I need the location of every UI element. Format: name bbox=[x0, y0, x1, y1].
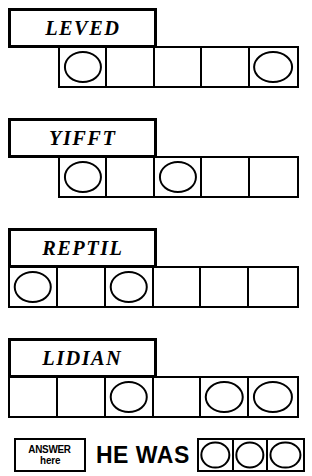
letter-cell[interactable] bbox=[60, 48, 107, 86]
puzzle-row-3: REPTIL bbox=[0, 222, 312, 322]
letter-cell[interactable] bbox=[106, 378, 154, 416]
answer-row: ANSWER here HE WAS bbox=[0, 436, 312, 476]
scrambled-word-1: LEVED bbox=[45, 18, 120, 39]
word-box-4: LIDIAN bbox=[8, 338, 157, 378]
answer-letter-grid bbox=[197, 438, 305, 472]
letter-grid-4 bbox=[8, 376, 299, 418]
word-box-3: REPTIL bbox=[8, 228, 157, 268]
letter-cell[interactable] bbox=[154, 268, 202, 306]
answer-tag-line2: here bbox=[40, 455, 60, 466]
letter-cell[interactable] bbox=[250, 48, 297, 86]
scrambled-word-3: REPTIL bbox=[42, 238, 123, 259]
answer-cell[interactable] bbox=[234, 440, 269, 470]
puzzle-row-4: LIDIAN bbox=[0, 332, 312, 432]
letter-cell[interactable] bbox=[10, 378, 58, 416]
letter-cell[interactable] bbox=[107, 48, 154, 86]
letter-cell[interactable] bbox=[249, 378, 297, 416]
letter-grid-1 bbox=[58, 46, 299, 88]
letter-cell[interactable] bbox=[201, 378, 249, 416]
letter-cell[interactable] bbox=[202, 48, 249, 86]
answer-prompt-text: HE WAS bbox=[96, 444, 190, 467]
letter-grid-3 bbox=[8, 266, 299, 308]
answer-cell[interactable] bbox=[268, 440, 303, 470]
letter-cell[interactable] bbox=[155, 158, 202, 196]
answer-cell[interactable] bbox=[199, 440, 234, 470]
word-box-2: YIFFT bbox=[8, 118, 157, 158]
letter-cell[interactable] bbox=[155, 48, 202, 86]
letter-cell[interactable] bbox=[154, 378, 202, 416]
word-jumble-puzzle: LEVED YIFFT REPTIL bbox=[0, 0, 312, 476]
word-box-1: LEVED bbox=[8, 8, 157, 48]
scrambled-word-4: LIDIAN bbox=[42, 348, 122, 369]
letter-cell[interactable] bbox=[107, 158, 154, 196]
letter-cell[interactable] bbox=[60, 158, 107, 196]
letter-cell[interactable] bbox=[58, 268, 106, 306]
letter-cell[interactable] bbox=[10, 268, 58, 306]
scrambled-word-2: YIFFT bbox=[49, 128, 116, 149]
letter-grid-2 bbox=[58, 156, 299, 198]
letter-cell[interactable] bbox=[249, 268, 297, 306]
letter-cell[interactable] bbox=[106, 268, 154, 306]
letter-cell[interactable] bbox=[58, 378, 106, 416]
letter-cell[interactable] bbox=[250, 158, 297, 196]
letter-cell[interactable] bbox=[201, 268, 249, 306]
letter-cell[interactable] bbox=[202, 158, 249, 196]
puzzle-row-1: LEVED bbox=[0, 0, 312, 100]
puzzle-row-2: YIFFT bbox=[0, 112, 312, 212]
answer-here-tag: ANSWER here bbox=[14, 438, 86, 472]
